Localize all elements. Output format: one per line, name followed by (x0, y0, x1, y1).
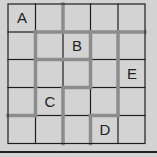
cell-label-a: A (8, 4, 36, 32)
grid-puzzle: A B E C D (0, 0, 157, 157)
cell-label-b: B (63, 32, 91, 60)
bottom-rule (0, 151, 157, 153)
cell-label-c: C (36, 88, 64, 116)
cell-label-e: E (118, 60, 146, 88)
cell-label-d: D (91, 116, 119, 144)
